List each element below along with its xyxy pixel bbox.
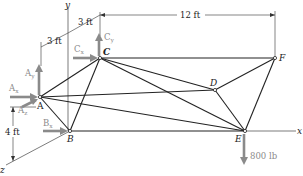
node-D (213, 88, 216, 91)
label-Cx: Cx (74, 44, 85, 55)
truss-diagram: y x z 3 ft 3 ft 12 ft 4 ft Ay Ax Az Bx (0, 0, 303, 176)
node-label-F: F (278, 53, 286, 63)
node-label-D: D (209, 78, 217, 88)
label-Cy: Cy (104, 32, 115, 44)
dim-3ft-a-label: 3 ft (47, 36, 62, 46)
node-A (38, 95, 41, 98)
node-B (68, 129, 71, 132)
x-axis-label: x (297, 126, 302, 136)
node-label-A: A (36, 101, 44, 111)
node-F (273, 56, 276, 59)
node-C (98, 56, 101, 59)
member-DF (215, 58, 275, 90)
member-AE (40, 97, 245, 131)
y-axis-label: y (64, 0, 71, 10)
node-label-B: B (66, 134, 74, 144)
member-CD (100, 58, 215, 90)
dim-4ft-label: 4 ft (5, 127, 20, 137)
member-EF (245, 58, 275, 131)
member-CE (100, 58, 245, 131)
node-label-C: C (103, 47, 111, 57)
member-DE (215, 90, 245, 131)
label-Ay: Ay (24, 68, 35, 80)
z-axis-label: z (0, 165, 5, 175)
label-Ax: Ax (8, 83, 19, 94)
member-AD (40, 90, 215, 97)
node-E (243, 129, 246, 132)
node-label-E: E (234, 134, 242, 144)
dim-3ft-b-label: 3 ft (78, 17, 93, 27)
member-AC (40, 58, 100, 97)
load-label: 800 lb (250, 151, 278, 161)
label-Bx: Bx (43, 118, 53, 129)
dim-12ft-label: 12 ft (180, 10, 201, 20)
label-Az: Az (17, 105, 27, 116)
